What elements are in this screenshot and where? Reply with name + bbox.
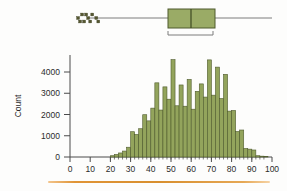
histogram-bar (199, 84, 203, 157)
histogram-bar (203, 97, 207, 157)
histogram-bar (155, 83, 159, 157)
x-tick-label: 0 (68, 164, 73, 174)
histogram-bar (123, 151, 127, 157)
histogram-bar (236, 132, 240, 158)
x-tick-label: 70 (207, 164, 217, 174)
histogram-bar (135, 134, 139, 157)
y-tick-label: 2000 (41, 110, 60, 120)
histogram-bar (118, 153, 122, 157)
boxplot-outlier-point (91, 13, 94, 16)
y-tick-label: 4000 (41, 67, 60, 77)
histogram-bar (232, 110, 236, 157)
x-tick-label: 80 (227, 164, 237, 174)
y-tick-label: 0 (55, 152, 60, 162)
y-axis-ticks: 01000200030004000 (41, 67, 70, 162)
x-tick-label: 10 (85, 164, 95, 174)
boxplot-outlier-point (79, 20, 82, 23)
histogram-bar (175, 106, 179, 157)
x-tick-label: 50 (166, 164, 176, 174)
histogram-bar (147, 121, 151, 157)
histogram-bar (183, 106, 187, 157)
y-tick-label: 3000 (41, 88, 60, 98)
histogram-bar (228, 111, 232, 157)
x-tick-label: 100 (265, 164, 279, 174)
boxplot-outlier-point (97, 20, 100, 23)
histogram-bar (110, 156, 114, 157)
histogram-bar (167, 99, 171, 157)
histogram-bar (195, 91, 199, 157)
histogram-bar (244, 149, 248, 158)
x-tick-label: 30 (126, 164, 136, 174)
histogram-bar (143, 115, 147, 157)
histogram-bar (264, 156, 268, 157)
histogram-bar (224, 74, 228, 157)
boxplot-outlier-point (83, 20, 86, 23)
boxplot-confidence-bracket (168, 31, 213, 35)
boxplot-outlier-point (87, 17, 90, 20)
histogram-bar (252, 150, 256, 157)
histogram-svg: 01000200030004000 0102030405060708090100… (0, 48, 287, 191)
boxplot-outlier-point (89, 20, 92, 23)
histogram-bar (171, 60, 175, 157)
x-tick-label: 90 (247, 164, 257, 174)
x-tick-label: 60 (186, 164, 196, 174)
histogram-bar (163, 87, 167, 157)
histogram-bar (260, 156, 264, 157)
histogram-bar (151, 108, 155, 157)
histogram-bar (139, 129, 143, 157)
boxplot-outlier-point (95, 17, 98, 20)
histogram-bar (248, 149, 252, 157)
y-axis-title: Count (13, 94, 23, 117)
x-axis-ticks: 0102030405060708090100 (68, 157, 280, 174)
histogram-bar (256, 156, 260, 157)
histogram-bar (215, 67, 219, 157)
histogram-bar (127, 147, 131, 157)
histogram-bar (187, 79, 191, 157)
boxplot-outlier-point (77, 17, 80, 20)
histogram-bar (179, 85, 183, 157)
x-tick-label: 20 (106, 164, 116, 174)
boxplot-svg (0, 0, 287, 48)
histogram-bar (207, 60, 211, 157)
x-tick-label: 40 (146, 164, 156, 174)
figure-root: 01000200030004000 0102030405060708090100… (0, 0, 287, 191)
histogram-bar (219, 99, 223, 157)
boxplot-outlier-point (81, 13, 84, 16)
histogram-bars (110, 60, 268, 157)
histogram-bar (191, 109, 195, 157)
boxplot-outlier-point (85, 13, 88, 16)
histogram-bar (211, 95, 215, 157)
boxplot-panel (0, 0, 287, 48)
y-tick-label: 1000 (41, 131, 60, 141)
histogram-bar (131, 132, 135, 157)
boxplot-outlier-points (77, 13, 100, 23)
histogram-bar (159, 110, 163, 157)
bottom-orange-rule (48, 181, 270, 183)
histogram-panel: 01000200030004000 0102030405060708090100… (0, 48, 287, 191)
histogram-bar (114, 154, 118, 157)
histogram-bar (240, 130, 244, 157)
